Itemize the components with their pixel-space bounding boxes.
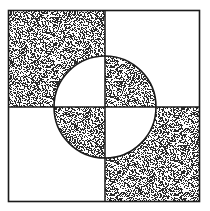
figure-container: Quadrant square with inverted central ci… bbox=[0, 0, 210, 211]
figure-illustration: Quadrant square with inverted central ci… bbox=[0, 0, 210, 211]
quadrant-bottom-right-outer-fill bbox=[105, 107, 200, 202]
